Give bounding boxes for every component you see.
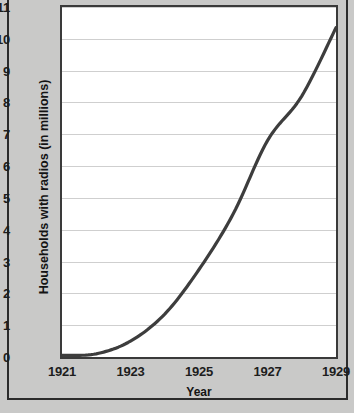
y-tick-label-8: 8 <box>0 96 10 109</box>
y-tick-label-3: 3 <box>0 256 10 269</box>
y-tick-label-9: 9 <box>0 65 10 78</box>
y-tick-label-2: 2 <box>0 287 10 300</box>
y-axis-title: Households with radios (in millions) <box>37 57 51 317</box>
x-axis-title: Year <box>60 385 338 399</box>
y-tick-label-5: 5 <box>0 192 10 205</box>
x-tick-label-1927: 1927 <box>238 364 298 379</box>
x-tick-label-1921: 1921 <box>32 364 92 379</box>
y-tick-label-0: 0 <box>0 351 10 364</box>
plot-area <box>60 5 338 359</box>
y-tick-label-6: 6 <box>0 160 10 173</box>
y-tick-label-11: 11 <box>0 1 10 14</box>
x-tick-label-1923: 1923 <box>101 364 161 379</box>
y-tick-label-1: 1 <box>0 319 10 332</box>
chart-figure: 01234567891011 19211923192519271929 Hous… <box>0 0 354 413</box>
line-series-radios <box>62 7 336 357</box>
x-tick-label-1929: 1929 <box>306 364 354 379</box>
figure-frame-right-rule <box>346 0 348 400</box>
y-tick-label-4: 4 <box>0 224 10 237</box>
y-tick-label-10: 10 <box>0 33 10 46</box>
y-tick-label-7: 7 <box>0 128 10 141</box>
x-tick-label-1925: 1925 <box>169 364 229 379</box>
